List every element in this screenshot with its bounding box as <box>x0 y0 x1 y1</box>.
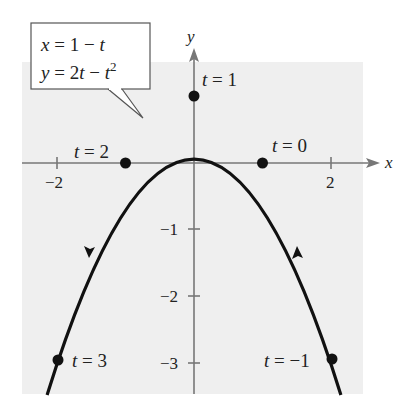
label-t3: t = 3 <box>72 350 107 371</box>
y-tick-label-neg1: −1 <box>160 220 178 239</box>
label-tneg1: t = −1 <box>264 350 310 371</box>
point-t1 <box>189 91 200 102</box>
y-tick-label-neg2: −2 <box>160 287 178 306</box>
point-t0 <box>257 158 268 169</box>
x-axis-label: x <box>384 153 393 172</box>
parametric-plot: x y −2 2 −1 −2 −3 t = 1 t = 0 t = 2 t = … <box>0 0 416 411</box>
x-tick-label-neg2: −2 <box>45 173 63 192</box>
label-t2: t = 2 <box>74 141 109 162</box>
equation-x: x = 1 − t <box>40 34 105 55</box>
y-axis-label: y <box>185 27 195 46</box>
x-tick-label-2: 2 <box>326 173 335 192</box>
plot-background <box>22 62 363 394</box>
point-t2 <box>120 158 131 169</box>
y-tick-label-neg3: −3 <box>160 354 178 373</box>
point-t3 <box>53 355 64 366</box>
label-t1: t = 1 <box>202 69 237 90</box>
label-t0: t = 0 <box>272 135 307 156</box>
equation-y: y = 2t − t2 <box>39 59 116 83</box>
point-tneg1 <box>327 354 338 365</box>
